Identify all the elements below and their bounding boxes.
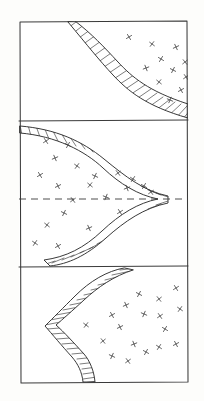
cross-section-figure <box>0 0 204 401</box>
panel-bottom <box>19 265 188 383</box>
figure-root <box>0 0 204 401</box>
panel-middle <box>19 121 188 267</box>
panel-top <box>19 11 192 121</box>
